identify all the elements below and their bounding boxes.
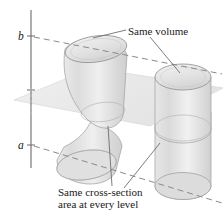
- leader-cross-section-right: [124, 143, 160, 188]
- annotation-cross-section-line-2: area at every level: [58, 199, 143, 211]
- dashed-level-b: [34, 37, 222, 74]
- oblique-cylinder-upper: [63, 32, 128, 128]
- axis-label-b: b: [18, 30, 24, 42]
- axis-label-a: a: [18, 139, 24, 151]
- right-cylinder-upper: [155, 64, 211, 143]
- figure-container: b a Same volume Same cross-section area …: [0, 0, 223, 222]
- annotation-same-volume: Same volume: [128, 26, 188, 38]
- annotation-same-cross-section: Same cross-section area at every level: [58, 187, 143, 211]
